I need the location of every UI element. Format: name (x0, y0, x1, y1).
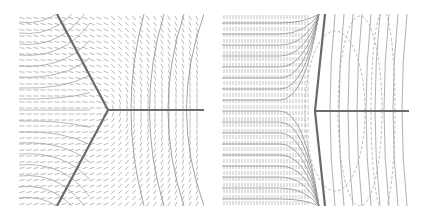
right-field-plot (222, 14, 409, 206)
left-field-plot (19, 14, 204, 206)
right-panel-junction-diagram (222, 14, 409, 206)
left-panel-triple-junction-diagram (19, 14, 204, 206)
